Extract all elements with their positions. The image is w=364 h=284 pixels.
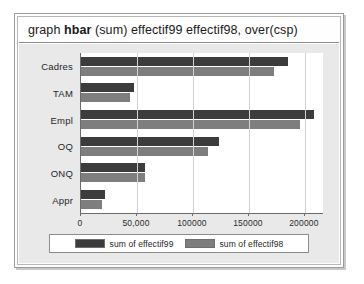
graph-window: graph hbar (sum) effectif99 effectif98, … <box>14 13 344 268</box>
legend-label: sum of effectif98 <box>220 239 284 249</box>
category-label: Cadres <box>41 61 73 72</box>
category-label: Appr <box>52 194 73 205</box>
category-label: Empl <box>51 114 73 125</box>
gridline <box>249 53 250 213</box>
axis-tick-label: 150000 <box>233 218 263 228</box>
axis-tick <box>136 213 137 216</box>
axis-tick <box>192 213 193 216</box>
bar-group <box>81 80 323 107</box>
axis-tick-label: 0 <box>78 218 83 228</box>
command-bar[interactable]: graph hbar (sum) effectif99 effectif98, … <box>19 18 339 43</box>
legend-entry[interactable]: sum of effectif98 <box>185 239 284 249</box>
gridline <box>305 53 306 213</box>
command-prefix: graph <box>28 23 60 37</box>
bar <box>81 200 102 209</box>
bar <box>81 120 300 129</box>
bar <box>81 67 274 76</box>
bar-group <box>81 186 323 213</box>
command-suffix: (sum) effectif99 effectif98, over(csp) <box>95 23 298 37</box>
axis-tick-label: 50,000 <box>122 218 149 228</box>
bar <box>81 137 219 146</box>
gridline <box>193 53 194 213</box>
axis-tick-label: 100000 <box>177 218 207 228</box>
axis-tick <box>304 213 305 216</box>
bar-group <box>81 160 323 187</box>
command-keyword: hbar <box>64 23 92 37</box>
bar <box>81 163 145 172</box>
bar-rows <box>81 53 323 213</box>
category-label: ONQ <box>51 168 73 179</box>
bar <box>81 83 134 92</box>
graph-canvas: CadresTAMEmplOQONQAppr 050,0001000001500… <box>19 44 339 263</box>
category-axis: CadresTAMEmplOQONQAppr <box>19 53 79 213</box>
bar-group <box>81 53 323 80</box>
bar <box>81 57 288 66</box>
legend-entry[interactable]: sum of effectif99 <box>75 239 174 249</box>
value-axis: 050,000100000150000200000 <box>80 213 323 214</box>
bar <box>81 190 105 199</box>
gridline <box>137 53 138 213</box>
category-label: OQ <box>58 141 73 152</box>
chart-legend: sum of effectif99sum of effectif98 <box>49 234 309 253</box>
bar-group <box>81 133 323 160</box>
category-label: TAM <box>53 88 73 99</box>
axis-tick <box>248 213 249 216</box>
legend-swatch <box>185 239 215 248</box>
bar <box>81 173 145 182</box>
plot-area <box>80 53 323 213</box>
bar-group <box>81 106 323 133</box>
axis-tick-label: 200000 <box>289 218 319 228</box>
bar <box>81 147 208 156</box>
legend-label: sum of effectif99 <box>110 239 174 249</box>
bar <box>81 93 130 102</box>
axis-tick <box>80 213 81 216</box>
bar <box>81 110 314 119</box>
legend-swatch <box>75 239 105 248</box>
